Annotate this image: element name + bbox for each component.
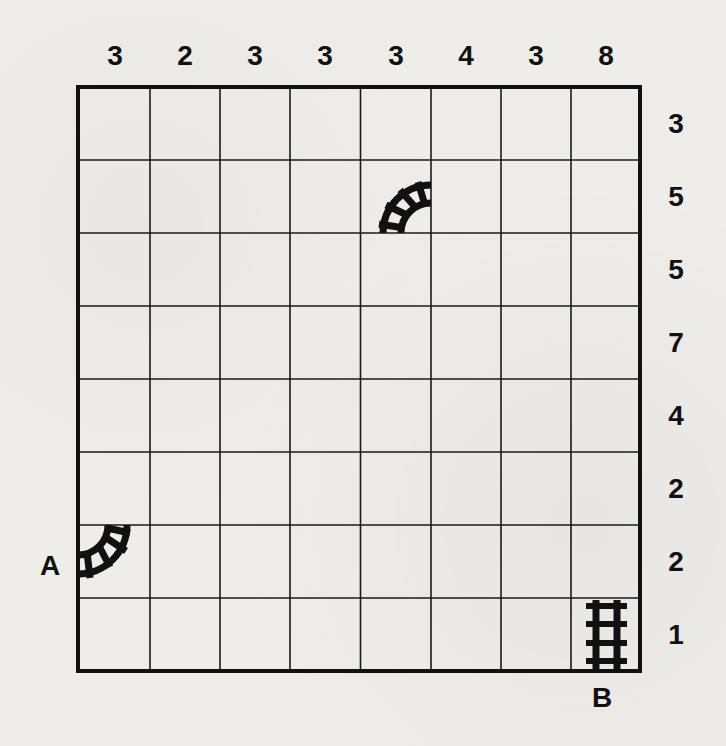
grid-cell-r6-c8[interactable] bbox=[570, 452, 640, 525]
grid-cell-r2-c3[interactable] bbox=[219, 160, 289, 233]
grid-cell-r8-c7[interactable] bbox=[500, 598, 570, 671]
grid-cell-r7-c5[interactable] bbox=[359, 525, 429, 598]
grid-cell-r3-c4[interactable] bbox=[289, 233, 359, 306]
grid-cell-r4-c6[interactable] bbox=[429, 306, 499, 379]
grid-cell-r7-c3[interactable] bbox=[219, 525, 289, 598]
grid-cell-r2-c1[interactable] bbox=[78, 160, 148, 233]
grid-cell-r1-c3[interactable] bbox=[219, 87, 289, 160]
grid-cell-r2-c4[interactable] bbox=[289, 160, 359, 233]
grid-cell-r5-c6[interactable] bbox=[429, 379, 499, 452]
grid-cell-r4-c2[interactable] bbox=[148, 306, 218, 379]
grid-cell-r1-c6[interactable] bbox=[429, 87, 499, 160]
grid-cell-r3-c8[interactable] bbox=[570, 233, 640, 306]
grid-cell-r8-c5[interactable] bbox=[359, 598, 429, 671]
grid-cell-r5-c3[interactable] bbox=[219, 379, 289, 452]
grid-cell-r7-c7[interactable] bbox=[500, 525, 570, 598]
grid-cell-r5-c4[interactable] bbox=[289, 379, 359, 452]
grid-cell-r1-c8[interactable] bbox=[570, 87, 640, 160]
grid-cell-r4-c1[interactable] bbox=[78, 306, 148, 379]
grid-cell-r6-c3[interactable] bbox=[219, 452, 289, 525]
grid-cell-r5-c2[interactable] bbox=[148, 379, 218, 452]
grid-cell-r8-c6[interactable] bbox=[429, 598, 499, 671]
grid-cell-r7-c6[interactable] bbox=[429, 525, 499, 598]
grid-cell-r4-c3[interactable] bbox=[219, 306, 289, 379]
grid-cell-r7-c2[interactable] bbox=[148, 525, 218, 598]
grid-cell-r3-c3[interactable] bbox=[219, 233, 289, 306]
grid-cell-r1-c4[interactable] bbox=[289, 87, 359, 160]
grid-cell-r3-c2[interactable] bbox=[148, 233, 218, 306]
grid-cell-r4-c5[interactable] bbox=[359, 306, 429, 379]
grid-cell-r7-c8[interactable] bbox=[570, 525, 640, 598]
grid-cell-r8-c4[interactable] bbox=[289, 598, 359, 671]
grid-cell-r2-c5[interactable] bbox=[359, 160, 429, 233]
grid-cell-r1-c7[interactable] bbox=[500, 87, 570, 160]
grid-cell-r3-c1[interactable] bbox=[78, 233, 148, 306]
grid-cell-r8-c8[interactable] bbox=[570, 598, 640, 671]
grid-cell-r3-c5[interactable] bbox=[359, 233, 429, 306]
grid-cell-r2-c7[interactable] bbox=[500, 160, 570, 233]
grid-cell-r6-c2[interactable] bbox=[148, 452, 218, 525]
grid-cell-r2-c6[interactable] bbox=[429, 160, 499, 233]
grid-cell-r6-c6[interactable] bbox=[429, 452, 499, 525]
grid-cell-r6-c1[interactable] bbox=[78, 452, 148, 525]
grid-cell-r1-c5[interactable] bbox=[359, 87, 429, 160]
grid-cell-r6-c5[interactable] bbox=[359, 452, 429, 525]
grid-cell-r3-c6[interactable] bbox=[429, 233, 499, 306]
grid-cell-r3-c7[interactable] bbox=[500, 233, 570, 306]
grid-cell-r4-c7[interactable] bbox=[500, 306, 570, 379]
grid-cell-r8-c3[interactable] bbox=[219, 598, 289, 671]
grid-cell-r5-c7[interactable] bbox=[500, 379, 570, 452]
grid-cell-r7-c1[interactable] bbox=[78, 525, 148, 598]
grid-cell-r6-c4[interactable] bbox=[289, 452, 359, 525]
grid-cell-r8-c2[interactable] bbox=[148, 598, 218, 671]
grid-cell-r5-c8[interactable] bbox=[570, 379, 640, 452]
grid-cell-r8-c1[interactable] bbox=[78, 598, 148, 671]
grid-cell-r2-c2[interactable] bbox=[148, 160, 218, 233]
grid-cell-r4-c4[interactable] bbox=[289, 306, 359, 379]
grid-cell-r7-c4[interactable] bbox=[289, 525, 359, 598]
grid-cell-r1-c1[interactable] bbox=[78, 87, 148, 160]
grid-cell-r6-c7[interactable] bbox=[500, 452, 570, 525]
grid-cell-r1-c2[interactable] bbox=[148, 87, 218, 160]
grid-cell-r4-c8[interactable] bbox=[570, 306, 640, 379]
grid-cell-r2-c8[interactable] bbox=[570, 160, 640, 233]
grid-cell-r5-c1[interactable] bbox=[78, 379, 148, 452]
grid-cell-r5-c5[interactable] bbox=[359, 379, 429, 452]
